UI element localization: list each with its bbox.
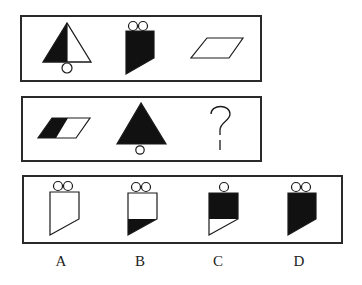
- option-c-figure-icon[interactable]: [209, 183, 238, 236]
- option-c-label[interactable]: C: [208, 253, 228, 270]
- row1-figure3-parallelogram-icon: [191, 38, 243, 58]
- row1-figure2-pentagon-icon: [126, 22, 154, 75]
- option-b-label[interactable]: B: [130, 253, 150, 270]
- option-b-figure-icon[interactable]: [128, 183, 157, 236]
- option-a-figure-icon[interactable]: [50, 182, 79, 236]
- question-mark-icon: [211, 107, 230, 151]
- row2-figure1-parallelogram-icon: [38, 118, 90, 138]
- option-d-figure-icon[interactable]: [288, 183, 316, 236]
- option-d-label[interactable]: D: [289, 253, 309, 270]
- row1-figure1-triangle-icon: [43, 23, 91, 73]
- option-a-label[interactable]: A: [51, 253, 71, 270]
- row2-figure2-triangle-icon: [117, 103, 166, 154]
- figures-layer: [0, 0, 362, 285]
